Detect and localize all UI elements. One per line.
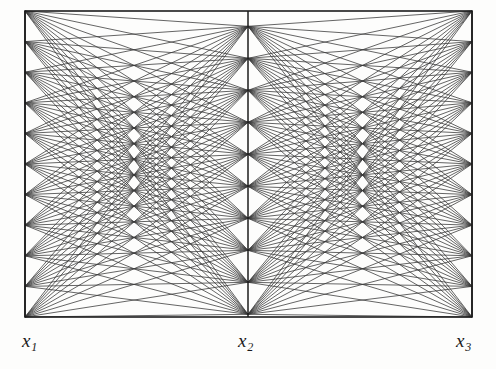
axis-label-x2: x2 xyxy=(238,331,253,350)
line-bundle-x2-x3 xyxy=(248,11,472,317)
axis-label-x2-base: x xyxy=(238,330,247,351)
axis-label-x3: x3 xyxy=(456,331,471,350)
line-bundle-x1-x2 xyxy=(25,11,248,317)
axis-label-x3-subscript: 3 xyxy=(465,340,471,354)
axis-lines-group xyxy=(25,11,472,317)
axis-label-x2-subscript: 2 xyxy=(247,340,253,354)
axis-label-x1: x1 xyxy=(22,331,37,350)
figure-container: x1 x2 x3 xyxy=(0,0,496,369)
axis-label-x3-base: x xyxy=(456,330,465,351)
axis-label-x1-base: x xyxy=(22,330,31,351)
parallel-coordinates-plot xyxy=(0,0,496,369)
axis-label-x1-subscript: 1 xyxy=(31,340,37,354)
